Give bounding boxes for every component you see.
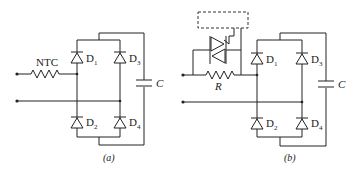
diode-d3 [296,53,308,64]
capacitor [136,80,152,86]
diode-d2 [71,117,83,128]
d2-label: D2 [86,116,98,131]
control-box [198,12,248,28]
diode-d4 [296,118,308,129]
diode-d1 [71,52,83,63]
diode-d3 [114,52,126,63]
panel-b-caption: (b) [284,152,296,164]
d4-label: D4 [311,117,323,132]
ntc-label: NTC [36,56,58,68]
capacitor-label: C [338,78,346,90]
resistor-label: R [214,80,222,92]
d3-label: D3 [311,53,323,68]
triac [210,36,229,64]
resistor-r [206,71,234,79]
d4-label: D4 [129,116,141,131]
circuit-figure: NTC D1 D3 D2 D4 C (a) [0,0,358,171]
capacitor [318,81,334,87]
capacitor-label: C [156,77,164,89]
d1-label: D1 [86,52,98,67]
d1-label: D1 [266,53,278,68]
diode-d1 [251,53,263,64]
ntc-resistor [31,70,59,78]
panel-b: R D1 D3 D2 D4 C (b) [181,12,346,164]
d3-label: D3 [129,52,141,67]
diode-d4 [114,117,126,128]
diode-d2 [251,118,263,129]
d2-label: D2 [266,117,278,132]
panel-a-caption: (a) [103,152,115,164]
panel-a: NTC D1 D3 D2 D4 C (a) [15,33,164,164]
